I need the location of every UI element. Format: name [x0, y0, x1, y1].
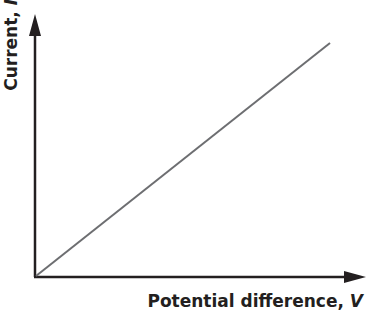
y-axis-label: Current, I: [1, 0, 23, 139]
y-axis-arrow-icon: [29, 14, 41, 36]
data-line: [36, 43, 330, 276]
iv-chart: [0, 0, 373, 316]
x-axis-arrow-icon: [344, 271, 366, 283]
x-axis-label: Potential difference, V: [147, 291, 363, 311]
